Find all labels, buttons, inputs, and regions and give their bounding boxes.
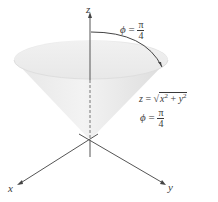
phi-label-side: ϕ = π 4: [140, 108, 164, 129]
plus-sign: +: [171, 93, 177, 104]
exponent-y: 2: [183, 92, 187, 100]
surface-equation: z = √x2 + y2: [139, 92, 187, 104]
fraction-denominator: 4: [137, 31, 144, 41]
phi-symbol: ϕ: [120, 23, 126, 35]
equation-lhs: z: [139, 93, 143, 104]
phi-label-top: ϕ = π 4: [120, 20, 144, 41]
radicand: x2 + y2: [159, 92, 187, 104]
equation-equals: =: [145, 93, 151, 104]
pi-over-four: π 4: [137, 20, 144, 41]
pi-over-four: π 4: [157, 108, 164, 129]
x-axis-label: x: [8, 183, 13, 194]
cone-diagram: z ϕ = π 4 z = √x2 + y2 ϕ = π 4 x y: [0, 0, 218, 202]
phi-symbol: ϕ: [140, 111, 146, 123]
exponent-x: 2: [165, 92, 169, 100]
equals-sign: =: [148, 111, 154, 123]
y-axis-arrowhead: [160, 180, 166, 185]
x-axis-arrowhead: [17, 180, 23, 185]
y-axis: [79, 134, 163, 183]
x-axis: [19, 134, 98, 184]
fraction-denominator: 4: [157, 119, 164, 129]
z-axis-label: z: [86, 4, 90, 15]
equals-sign: =: [128, 23, 134, 35]
y-axis-label: y: [168, 182, 173, 193]
